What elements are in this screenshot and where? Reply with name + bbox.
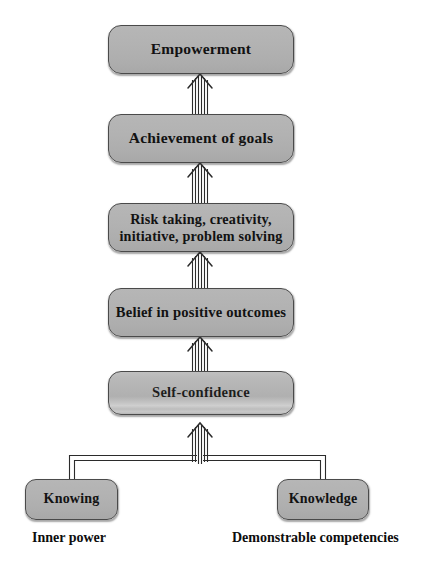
node-self-confidence[interactable]: Self-confidence — [108, 371, 294, 415]
diagram-canvas: Empowerment Achievement of goals Risk ta… — [0, 0, 440, 570]
node-self-confidence-label: Self-confidence — [146, 384, 256, 401]
arrow-achievement-to-empowerment — [188, 74, 212, 114]
node-belief-in-positive-outcomes-label: Belief in positive outcomes — [110, 304, 292, 321]
node-knowing-label: Knowing — [38, 491, 106, 508]
node-empowerment-label: Empowerment — [145, 40, 257, 58]
node-knowledge[interactable]: Knowledge — [277, 479, 369, 520]
arrow-selfconfidence-to-belief — [188, 337, 212, 371]
node-risk-taking-creativity-label: Risk taking, creativity, initiative, pro… — [113, 211, 288, 245]
node-achievement-of-goals-label: Achievement of goals — [123, 129, 279, 147]
caption-inner-power: Inner power — [32, 530, 106, 546]
caption-demonstrable-competencies: Demonstrable competencies — [232, 530, 399, 546]
node-risk-taking-creativity[interactable]: Risk taking, creativity, initiative, pro… — [108, 203, 294, 252]
connector-bottom-tree — [70, 423, 326, 479]
arrow-belief-to-risk — [188, 252, 212, 288]
arrow-risk-to-achievement — [188, 163, 212, 203]
node-belief-in-positive-outcomes[interactable]: Belief in positive outcomes — [108, 288, 294, 337]
node-knowing[interactable]: Knowing — [25, 479, 118, 520]
node-empowerment[interactable]: Empowerment — [108, 25, 294, 74]
node-knowledge-label: Knowledge — [283, 491, 364, 508]
node-achievement-of-goals[interactable]: Achievement of goals — [108, 114, 294, 163]
